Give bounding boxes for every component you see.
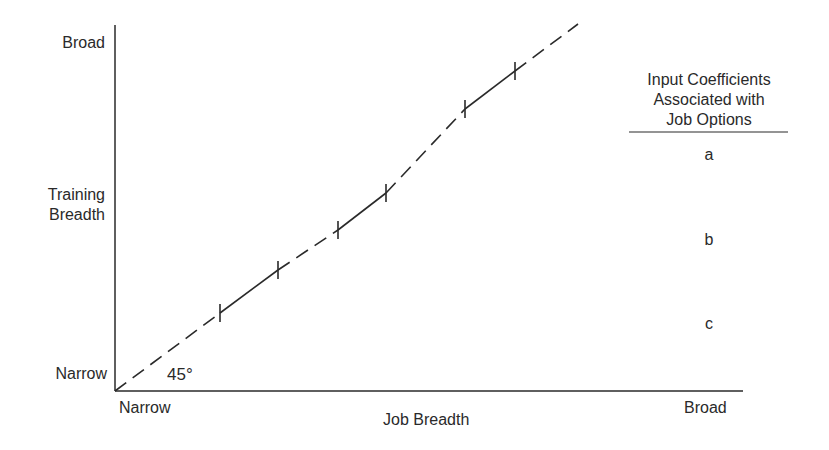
legend-item-b: b: [620, 230, 798, 250]
x-axis-right-label: Broad: [684, 398, 727, 418]
tick-marks: [220, 62, 515, 322]
diagonal-solid-segments: [220, 71, 515, 313]
angle-label: 45°: [167, 365, 193, 385]
y-axis-bottom-label: Narrow: [10, 364, 107, 384]
legend-title-line1: Input Coefficients: [620, 70, 798, 90]
legend-title-line3: Job Options: [620, 110, 798, 130]
legend-item-a: a: [620, 145, 798, 165]
diagonal-dashed-line: [115, 24, 578, 391]
diagram-canvas: [0, 0, 829, 450]
y-axis-title-line1: Training: [10, 185, 105, 205]
legend-title-line2: Associated with: [620, 90, 798, 110]
x-axis-title: Job Breadth: [383, 410, 469, 430]
x-axis-left-label: Narrow: [119, 398, 171, 418]
y-axis-title-line2: Breadth: [10, 205, 105, 225]
segment-a: [465, 71, 515, 109]
legend-item-c: c: [620, 314, 798, 334]
segment-c: [220, 270, 278, 313]
y-axis-top-label: Broad: [20, 33, 105, 53]
segment-b: [338, 193, 386, 230]
